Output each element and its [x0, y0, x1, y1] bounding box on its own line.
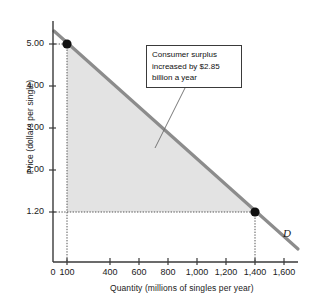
demand-curve-label: D — [283, 227, 291, 239]
callout-line-2: increased by $2.85 — [152, 61, 237, 73]
x-tick-label-100: 100 — [54, 267, 80, 277]
callout-line-1: Consumer surplus — [152, 49, 237, 61]
x-tick-label-1400: 1,400 — [239, 267, 271, 277]
chart-screenshot: 5.00 4.00 3.00 2.00 1.20 0 100 400 600 8… — [0, 0, 316, 306]
x-axis-title: Quantity (millions of singles per year) — [110, 283, 254, 293]
x-tick-label-400: 400 — [97, 267, 123, 277]
x-tick-label-1000: 1,000 — [181, 267, 213, 277]
point-b-marker — [250, 207, 259, 216]
consumer-surplus-callout: Consumer surplus increased by $2.85 bill… — [146, 45, 242, 88]
y-tick-label-1-20: 1.20 — [10, 206, 44, 216]
y-axis-title: Price (dollars per single) — [25, 47, 35, 207]
x-tick-label-1600: 1,600 — [268, 267, 300, 277]
x-tick-label-800: 800 — [155, 267, 181, 277]
callout-line-3: billion a year — [152, 72, 237, 84]
x-tick-label-1200: 1,200 — [210, 267, 242, 277]
x-tick-label-600: 600 — [126, 267, 152, 277]
point-a-marker — [62, 39, 71, 48]
